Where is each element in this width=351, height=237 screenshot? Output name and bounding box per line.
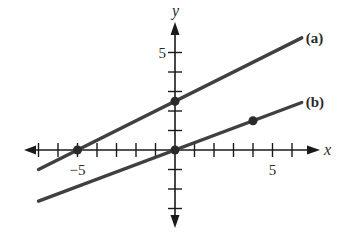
series-label-b: (b) — [306, 94, 324, 111]
x-axis-left-arrow-icon — [24, 146, 36, 155]
point-marker — [249, 116, 258, 125]
tick-marks — [39, 53, 293, 209]
x-tick-label: 5 — [269, 162, 277, 178]
point-marker — [171, 97, 180, 106]
x-axis-right-arrow-icon — [307, 146, 320, 155]
coordinate-plane: (a)(b)−555xy — [0, 0, 351, 237]
x-axis-label: x — [323, 141, 331, 158]
x-tick-label: −5 — [70, 162, 86, 178]
point-marker — [73, 146, 82, 155]
series-label-a: (a) — [306, 30, 324, 47]
point-marker — [171, 146, 180, 155]
y-axis-down-arrow-icon — [171, 215, 180, 228]
y-axis-label: y — [170, 2, 180, 20]
y-tick-label: 5 — [159, 45, 167, 61]
y-axis-up-arrow-icon — [171, 22, 180, 35]
